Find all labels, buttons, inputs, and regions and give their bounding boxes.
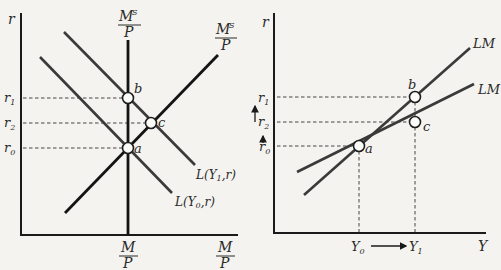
svg-text:Y1: Y1 [409, 239, 423, 256]
svg-text:L(Y1,r): L(Y1,r) [195, 168, 236, 183]
svg-text:r0: r0 [4, 140, 15, 157]
point-a-left [123, 143, 134, 154]
label-a-right: a [365, 141, 373, 156]
left-y-axis-label: r [8, 11, 16, 27]
svg-text:r1: r1 [258, 90, 269, 107]
point-c-left [146, 118, 157, 129]
label-c-right: c [423, 119, 431, 134]
label-money-demand-y0: L(Y0,r) [174, 195, 215, 210]
svg-text:Y0: Y0 [351, 239, 365, 256]
point-b-right [410, 92, 421, 103]
diagram-canvas: b c a r r1 r2 r0 M S P M S P [0, 0, 501, 270]
right-y-axis-label: r [262, 14, 270, 30]
left-x-tick-label: M P [119, 239, 138, 270]
lm-curve-steep [304, 48, 470, 195]
svg-text:P: P [122, 255, 133, 270]
is-lm-panel: b c a LM LM r r1 r2 r0 Y0 Y1 Y [255, 13, 501, 256]
label-lm-steep: LM [472, 36, 496, 51]
right-r1-tick-label: r1 [258, 90, 269, 107]
left-r2-tick-label: r2 [4, 115, 15, 132]
svg-text:r2: r2 [4, 115, 15, 132]
left-x-axis-label: M P [216, 239, 235, 270]
label-c-left: c [158, 115, 166, 130]
label-money-demand-y1: L(Y1,r) [195, 168, 236, 183]
left-r0-tick-label: r0 [4, 140, 15, 157]
svg-text:r2: r2 [258, 114, 269, 131]
point-b-left [123, 93, 134, 104]
svg-text:P: P [219, 255, 230, 270]
right-y1-tick-label: Y1 [409, 239, 423, 256]
label-lm-flat: LM [477, 82, 501, 97]
label-b-right: b [408, 77, 416, 92]
money-supply-label-upward: M S P [215, 21, 237, 53]
left-r1-tick-label: r1 [4, 90, 15, 107]
svg-text:S: S [229, 21, 235, 30]
label-a-left: a [134, 141, 142, 156]
money-market-panel: b c a r r1 r2 r0 M S P M S P [4, 8, 238, 270]
svg-text:S: S [132, 8, 138, 17]
svg-text:M: M [217, 239, 233, 255]
svg-text:r1: r1 [4, 90, 15, 107]
money-supply-upward-line [65, 55, 218, 213]
svg-text:L(Y0,r): L(Y0,r) [174, 195, 215, 210]
right-x-axis-label: Y [478, 238, 489, 254]
right-y0-tick-label: Y0 [351, 239, 365, 256]
label-b-left: b [134, 81, 142, 96]
svg-text:M: M [120, 239, 136, 255]
svg-text:P: P [220, 37, 231, 53]
right-r0-tick-label: r0 [259, 139, 270, 156]
point-c-right [410, 117, 421, 128]
svg-text:r0: r0 [259, 139, 270, 156]
svg-text:P: P [123, 24, 134, 40]
money-supply-label-vertical: M S P [118, 8, 141, 40]
right-r2-tick-label: r2 [258, 114, 269, 131]
point-a-right [354, 141, 365, 152]
